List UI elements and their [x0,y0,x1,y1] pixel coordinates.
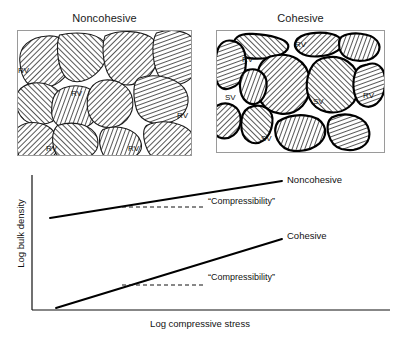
annotation-compressibility-noncohesive: “Compressibility” [208,196,275,206]
annotation-compressibility-cohesive: “Compressibility” [208,272,275,282]
panel-cohesive: RV RV RV SV SV SV [216,30,385,153]
x-axis-label: Log compressive stress [0,318,400,329]
panel-title-noncohesive: Noncohesive [17,12,192,24]
chart-svg [0,163,400,338]
y-axis-label: Log bulk density [15,174,26,294]
figure-root: Noncohesive Cohesive [0,0,400,338]
series-label-cohesive: Cohesive [287,230,327,241]
cohesive-particle-packing [217,31,384,152]
noncohesive-particle-packing [18,31,191,155]
panel-noncohesive: RV RV RV RV RV [17,30,192,156]
panel-title-cohesive: Cohesive [216,12,385,24]
compressibility-chart [0,163,400,338]
series-label-noncohesive: Noncohesive [287,174,342,185]
